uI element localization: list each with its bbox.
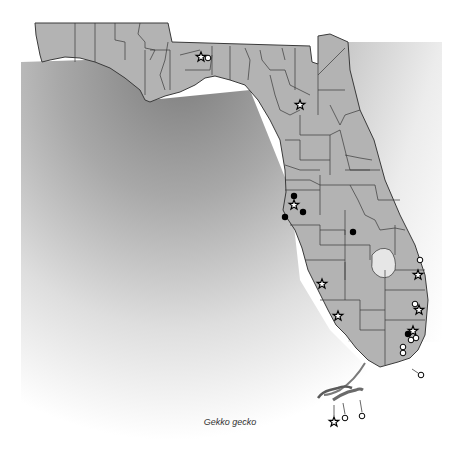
open-circle-marker xyxy=(413,335,419,341)
filled-circle-marker xyxy=(350,229,356,235)
open-circle-marker xyxy=(412,301,418,307)
filled-circle-marker xyxy=(300,209,306,215)
filled-circle-marker xyxy=(291,193,297,199)
open-circle-marker xyxy=(417,257,423,263)
open-circle-marker xyxy=(205,55,211,61)
open-circle-marker xyxy=(418,372,424,378)
species-caption: Gekko gecko xyxy=(0,417,460,427)
florida-county-map xyxy=(0,0,460,455)
open-circle-marker xyxy=(400,350,406,356)
open-circle-marker xyxy=(400,344,406,350)
filled-circle-marker xyxy=(282,214,288,220)
